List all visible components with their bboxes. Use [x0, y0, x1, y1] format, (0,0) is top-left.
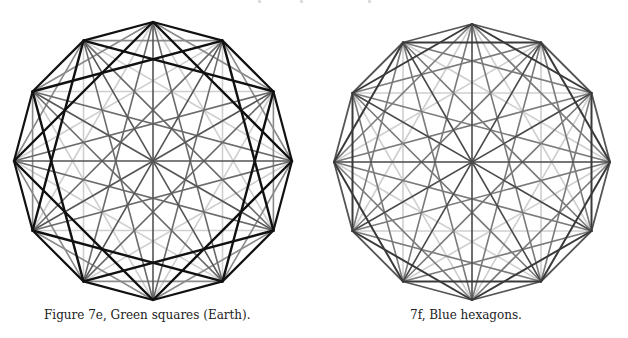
figure-7f-caption: 7f, Blue hexagons. — [410, 308, 522, 322]
dodecagon-complete-graph-hexagons — [0, 0, 628, 338]
clipped-text-fragment — [368, 0, 371, 3]
clipped-text-fragment — [300, 0, 303, 3]
clipped-text-fragment — [258, 0, 261, 3]
